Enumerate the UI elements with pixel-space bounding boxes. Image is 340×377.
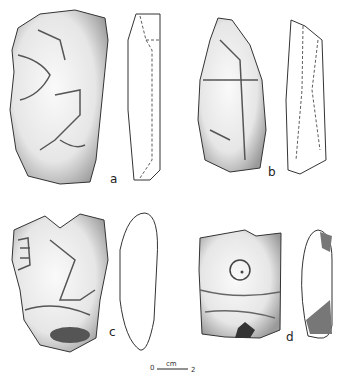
artifact-c-profile [120, 213, 158, 350]
artifact-b-profile [286, 20, 326, 174]
scale-end: 2 [191, 366, 195, 374]
label-c: c [109, 325, 116, 339]
figure: a b c d 0 cm 2 [0, 0, 340, 377]
artifact-b-front [198, 18, 266, 172]
scale-unit: cm [166, 360, 177, 368]
artifact-d-profile [302, 230, 332, 338]
artifact-a-front [10, 10, 108, 184]
label-b: b [268, 165, 276, 179]
label-a: a [110, 172, 117, 186]
scale-start: 0 [150, 364, 154, 372]
artifact-a-profile [128, 14, 160, 180]
artifact-d-front [199, 230, 281, 338]
label-d: d [286, 330, 294, 344]
artifact-drawings [0, 0, 340, 377]
artifact-c-front [12, 214, 108, 352]
